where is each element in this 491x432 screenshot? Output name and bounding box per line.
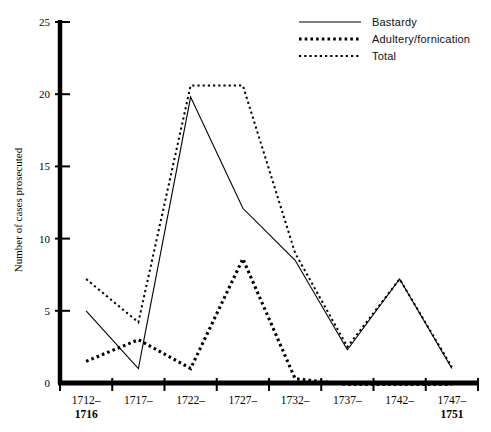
y-tick-label: 20 xyxy=(39,88,51,100)
x-tick-label: 1717– xyxy=(124,394,153,406)
series-line-bastardy xyxy=(86,97,452,368)
legend-label: Adultery/fornication xyxy=(372,33,470,45)
x-tick-label: 1712– xyxy=(72,394,101,406)
y-tick-label: 25 xyxy=(39,16,51,28)
line-chart: Number of cases prosecuted 0510152025 17… xyxy=(0,0,491,432)
chart-canvas: Number of cases prosecuted 0510152025 17… xyxy=(0,0,491,432)
y-tick-mark-group xyxy=(55,22,70,311)
y-tick-label: 15 xyxy=(39,160,51,172)
legend-label: Total xyxy=(372,50,396,62)
y-tick-label-group: 0510152025 xyxy=(39,16,51,389)
y-axis-title: Number of cases prosecuted xyxy=(12,147,24,272)
series-group xyxy=(86,86,452,385)
x-tick-label: 1722– xyxy=(176,394,205,406)
x-tick-label: 1747– xyxy=(438,394,467,406)
x-tick-label: 1727– xyxy=(229,394,258,406)
series-line-total xyxy=(86,86,452,368)
x-tick-label: 1737– xyxy=(333,394,362,406)
chart-legend: BastardyAdultery/fornicationTotal xyxy=(299,16,470,62)
y-tick-label: 5 xyxy=(45,305,51,317)
y-tick-label: 10 xyxy=(39,233,51,245)
legend-label: Bastardy xyxy=(372,16,417,28)
x-tick-label: 1716 xyxy=(75,408,98,420)
x-tick-label: 1732– xyxy=(281,394,310,406)
x-tick-label: 1751 xyxy=(440,408,463,420)
y-axis-title-group: Number of cases prosecuted xyxy=(12,147,24,272)
y-tick-label: 0 xyxy=(45,377,51,389)
series-line-adultery-fornication xyxy=(86,259,452,385)
x-tick-label: 1742– xyxy=(385,394,414,406)
x-tick-label-group: 1712–17161717–1722–1727–1732–1737–1742–1… xyxy=(72,394,467,420)
